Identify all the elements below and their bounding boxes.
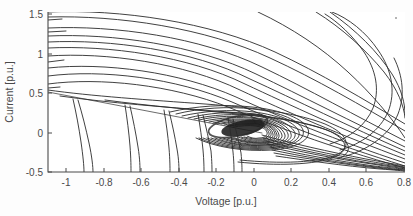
y-axis-title: Current [p.u.] xyxy=(3,61,15,122)
x-tick-label: 0.4 xyxy=(322,177,336,188)
x-tick-label: -0.4 xyxy=(170,177,188,188)
y-tick-label: -0.5 xyxy=(26,167,44,178)
y-tick-label: 1 xyxy=(37,49,43,60)
y-tick-label: 0.5 xyxy=(29,88,43,99)
phase-portrait-figure: -1 -0.8 -0.6 -0.4 -0.2 0 0.2 0.4 0.6 0.8… xyxy=(0,0,413,216)
x-tick-label: 0.2 xyxy=(284,177,298,188)
phase-portrait-plot: -1 -0.8 -0.6 -0.4 -0.2 0 0.2 0.4 0.6 0.8… xyxy=(0,0,413,216)
y-tick-label: 1.5 xyxy=(29,9,43,20)
x-tick-label: -1 xyxy=(62,177,71,188)
x-tick-label: -0.8 xyxy=(95,177,113,188)
x-tick-label: 0.6 xyxy=(359,177,373,188)
x-axis-title: Voltage [p.u.] xyxy=(195,195,256,207)
x-tick-label: 0 xyxy=(251,177,257,188)
x-tick-label: 0.8 xyxy=(397,177,411,188)
x-tick-label: -0.6 xyxy=(132,177,150,188)
y-tick-label: 0 xyxy=(37,128,43,139)
x-tick-label: -0.2 xyxy=(207,177,225,188)
